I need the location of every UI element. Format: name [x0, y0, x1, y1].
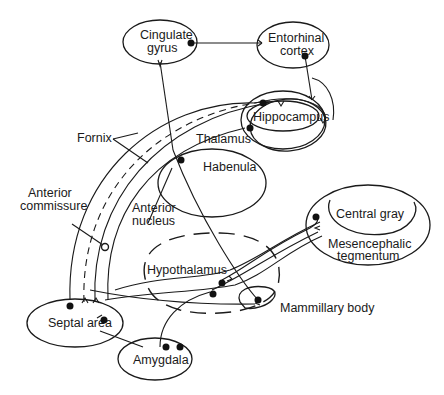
anterior-commissure-label-1: Anterior: [28, 186, 72, 200]
hippocampus-label: Hippocampus: [253, 110, 329, 124]
anterior-nucleus-label-group: Anterior nucleus: [132, 168, 176, 228]
anterior-nucleus-label-2: nucleus: [132, 214, 175, 228]
septal-amygdala-fiber: [100, 331, 143, 347]
hypothalamus-tegmentum-fibers: [90, 218, 322, 304]
mammillary-body-label: Mammillary body: [280, 301, 375, 315]
central-gray-node: Central gray Mesencephalic tegmentum: [306, 185, 430, 265]
anterior-commissure-label-group: Anterior commissure: [20, 186, 109, 251]
habenula-label: Habenula: [203, 160, 257, 174]
hypothalamus-label: Hypothalamus: [147, 263, 227, 277]
anterior-nucleus-label-1: Anterior: [132, 201, 176, 215]
cingulate-gyrus-label-1: Cingulate: [140, 28, 193, 42]
mesencephalic-label-2: tegmentum: [337, 249, 400, 263]
cingulate-gyrus-label-2: gyrus: [147, 41, 178, 55]
septal-area-node: Septal area: [27, 299, 123, 347]
entorhinal-cortex-label-1: Entorhinal: [268, 31, 324, 45]
limbic-system-diagram: Cingulate gyrus Entorhinal cortex Hippoc…: [0, 0, 444, 395]
cingulate-gyrus-node: Cingulate gyrus: [123, 20, 197, 64]
central-gray-label: Central gray: [336, 207, 405, 221]
amygdala-label: Amygdala: [133, 353, 189, 367]
anterior-commissure-label-2: commissure: [20, 199, 87, 213]
entorhinal-cortex-node: Entorhinal cortex: [257, 22, 329, 68]
cingulate-entorhinal-fiber: [191, 40, 262, 46]
fornix-label-group: Fornix: [77, 131, 148, 163]
entorhinal-cortex-label-2: cortex: [280, 44, 315, 58]
fornix-label: Fornix: [77, 131, 112, 145]
